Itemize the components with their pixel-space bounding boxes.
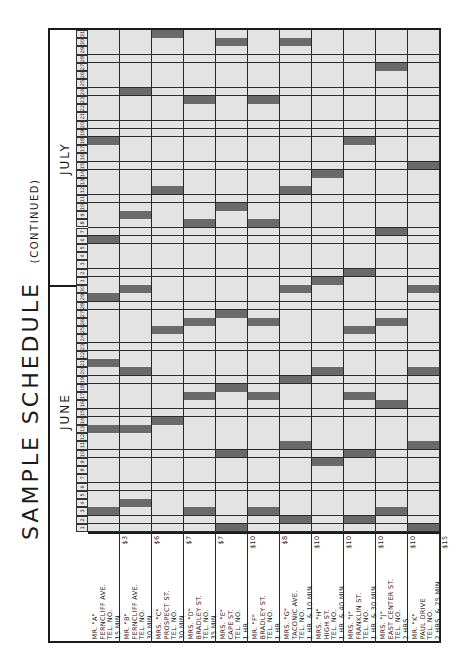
day-number: 5 xyxy=(76,244,88,252)
title-text: SAMPLE SCHEDULE xyxy=(18,281,43,540)
day-number: 21 xyxy=(76,359,88,367)
day-number: 24 xyxy=(76,334,88,342)
day-number: 16 xyxy=(76,400,88,408)
customer-label-j: MRS. "J" EAST CENTER ST. TEL. NO. 2 HRS.… xyxy=(376,532,408,643)
customer-fee: $15 xyxy=(442,535,450,639)
day-number: 9 xyxy=(76,458,88,466)
document-title: SAMPLE SCHEDULE (CONTINUED) xyxy=(18,179,43,540)
day-number: 12 xyxy=(76,186,88,194)
day-number: 13 xyxy=(76,425,88,433)
day-number: 25 xyxy=(76,326,88,334)
day-number: 11 xyxy=(76,441,88,449)
day-number: 23 xyxy=(76,96,88,104)
day-number: 25 xyxy=(76,79,88,87)
customer-label-i: MRS. "I" FRANKLIN ST. TEL. NO. 1 HR. & 3… xyxy=(344,532,376,643)
day-number: 14 xyxy=(76,170,88,178)
day-number: 8 xyxy=(76,219,88,227)
customer-labels: MR. "A" FERNCLIFF AVE. TEL. NO. 15 MIN.$… xyxy=(88,532,440,643)
month-label-june: JUNE xyxy=(58,393,72,430)
customer-info: MR. "K" PAUL DRIVE TEL. NO. 2 HRS. & 25 … xyxy=(412,535,450,639)
day-number: 11 xyxy=(76,195,88,203)
day-number: 22 xyxy=(76,104,88,112)
day-number: 28 xyxy=(76,302,88,310)
day-number: 2 xyxy=(76,269,88,277)
day-number: 22 xyxy=(76,351,88,359)
customer-label-h: MRS. "H" HIGH ST. TEL. NO. 1 HR. & 40 MI… xyxy=(312,532,344,643)
day-number: 30 xyxy=(76,285,88,293)
day-number: 16 xyxy=(76,153,88,161)
day-number: 17 xyxy=(76,145,88,153)
day-number: 27 xyxy=(76,63,88,71)
day-number: 4 xyxy=(76,252,88,260)
day-number: 1 xyxy=(76,277,88,285)
day-number: 5 xyxy=(76,491,88,499)
day-number: 29 xyxy=(76,293,88,301)
day-number: 6 xyxy=(76,236,88,244)
day-number: 26 xyxy=(76,318,88,326)
day-number: 24 xyxy=(76,88,88,96)
day-number: 3 xyxy=(76,507,88,515)
day-number: 1 xyxy=(76,524,88,532)
day-number: 12 xyxy=(76,433,88,441)
customer-label-b: MR. "B" FERNCLIFF AVE. TEL. NO. 30 MIN.$… xyxy=(120,532,152,643)
day-number: 2 xyxy=(76,516,88,524)
day-number: 21 xyxy=(76,112,88,120)
customer-label-c: MRS. "C" PROSPECT ST. TEL. NO. 30 MIN.$7 xyxy=(152,532,184,643)
day-number: 19 xyxy=(76,129,88,137)
day-number: 4 xyxy=(76,499,88,507)
day-number: 15 xyxy=(76,162,88,170)
day-number: 31 xyxy=(76,30,88,38)
day-number: 18 xyxy=(76,137,88,145)
month-label-july: JULY xyxy=(58,142,72,175)
day-number: 13 xyxy=(76,178,88,186)
customer-label-e: MRS. "E" CAPE ST. TEL. NO. 1 HR.$10 xyxy=(216,532,248,643)
day-number: 14 xyxy=(76,417,88,425)
day-number: 17 xyxy=(76,392,88,400)
title-subtitle: (CONTINUED) xyxy=(29,179,40,264)
day-number: 3 xyxy=(76,260,88,268)
day-number: 19 xyxy=(76,376,88,384)
customer-label-g: MRS. "G" TACONIC AVE. TEL. NO. 1 HR. & 1… xyxy=(280,532,312,643)
day-number: 18 xyxy=(76,384,88,392)
day-number: 27 xyxy=(76,310,88,318)
day-number: 7 xyxy=(76,228,88,236)
schedule-grid xyxy=(88,30,440,532)
customer-label-d: MRS. "D" BRADLEY ST. TEL. NO. 35 MIN.$7 xyxy=(184,532,216,643)
day-number: 30 xyxy=(76,38,88,46)
day-number: 26 xyxy=(76,71,88,79)
day-number: 10 xyxy=(76,203,88,211)
day-number: 15 xyxy=(76,409,88,417)
day-number: 20 xyxy=(76,367,88,375)
day-number: 10 xyxy=(76,450,88,458)
customer-label-k: MR. "K" PAUL DRIVE TEL. NO. 2 HRS. & 25 … xyxy=(408,532,440,643)
customer-label-a: MR. "A" FERNCLIFF AVE. TEL. NO. 15 MIN.$… xyxy=(88,532,120,643)
day-number: 6 xyxy=(76,483,88,491)
day-number: 23 xyxy=(76,343,88,351)
day-number: 28 xyxy=(76,55,88,63)
day-number: 7 xyxy=(76,474,88,482)
day-number: 20 xyxy=(76,121,88,129)
day-number: 9 xyxy=(76,211,88,219)
customer-label-f: MR. "F" BRADLEY ST. TEL. NO. 1 HR.$8 xyxy=(248,532,280,643)
day-number: 8 xyxy=(76,466,88,474)
day-number: 29 xyxy=(76,46,88,54)
